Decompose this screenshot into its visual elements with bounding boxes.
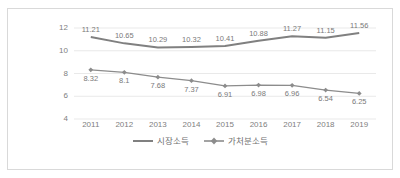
series-1-marker [88, 67, 93, 72]
x-axis-tick-2016: 2016 [242, 121, 276, 129]
data-label-s1-2015: 6.91 [210, 91, 240, 99]
data-label-s1-2016: 6.98 [244, 90, 274, 98]
legend-label-market-income: 시장소득 [157, 137, 189, 146]
y-axis-tick-12: 12 [48, 24, 68, 32]
data-label-s1-2012: 8.1 [109, 77, 139, 85]
data-label-s0-2013: 10.29 [143, 36, 173, 44]
data-label-s1-2014: 7.37 [176, 86, 206, 94]
data-label-s0-2012: 10.65 [109, 32, 139, 40]
x-axis-tick-2018: 2018 [309, 121, 343, 129]
legend-label-disposable-income: 가처분소득 [228, 137, 268, 146]
data-label-s0-2014: 10.32 [176, 36, 206, 44]
series-1-marker [155, 75, 160, 80]
data-label-s1-2019: 6.25 [344, 98, 374, 106]
data-label-s0-2018: 11.15 [311, 27, 341, 35]
data-label-s0-2017: 11.27 [277, 25, 307, 33]
data-label-s0-2016: 10.88 [244, 30, 274, 38]
chart-legend: 시장소득 가처분소득 [0, 136, 400, 146]
series-1-marker [256, 83, 261, 88]
series-1-marker [323, 88, 328, 93]
data-label-s1-2011: 8.32 [76, 75, 106, 83]
chart-container: 1210864 20112012201320142015201620172018… [0, 0, 400, 178]
series-1-marker [223, 83, 228, 88]
legend-item-disposable-income[interactable]: 가처분소득 [203, 136, 268, 146]
data-label-s0-2019: 11.56 [344, 22, 374, 30]
y-axis-tick-8: 8 [48, 70, 68, 78]
x-axis-tick-2017: 2017 [275, 121, 309, 129]
x-axis-tick-2013: 2013 [141, 121, 175, 129]
x-axis-tick-2015: 2015 [208, 121, 242, 129]
y-axis-tick-10: 10 [48, 47, 68, 55]
data-label-s1-2018: 6.54 [311, 95, 341, 103]
data-label-s1-2013: 7.68 [143, 82, 173, 90]
legend-line-diamond-icon [203, 136, 225, 146]
x-axis-tick-2014: 2014 [174, 121, 208, 129]
data-label-s1-2017: 6.96 [277, 90, 307, 98]
x-axis-tick-2012: 2012 [107, 121, 141, 129]
legend-line-icon [132, 136, 154, 146]
series-1-marker [290, 83, 295, 88]
x-axis-tick-2019: 2019 [342, 121, 376, 129]
series-1-marker [189, 78, 194, 83]
data-label-s0-2011: 11.21 [76, 26, 106, 34]
legend-item-market-income[interactable]: 시장소득 [132, 136, 189, 146]
data-label-s0-2015: 10.41 [210, 35, 240, 43]
series-1-marker [357, 91, 362, 96]
x-axis-tick-2011: 2011 [74, 121, 108, 129]
y-axis-tick-6: 6 [48, 92, 68, 100]
series-1-marker [122, 70, 127, 75]
y-axis-tick-4: 4 [48, 115, 68, 123]
